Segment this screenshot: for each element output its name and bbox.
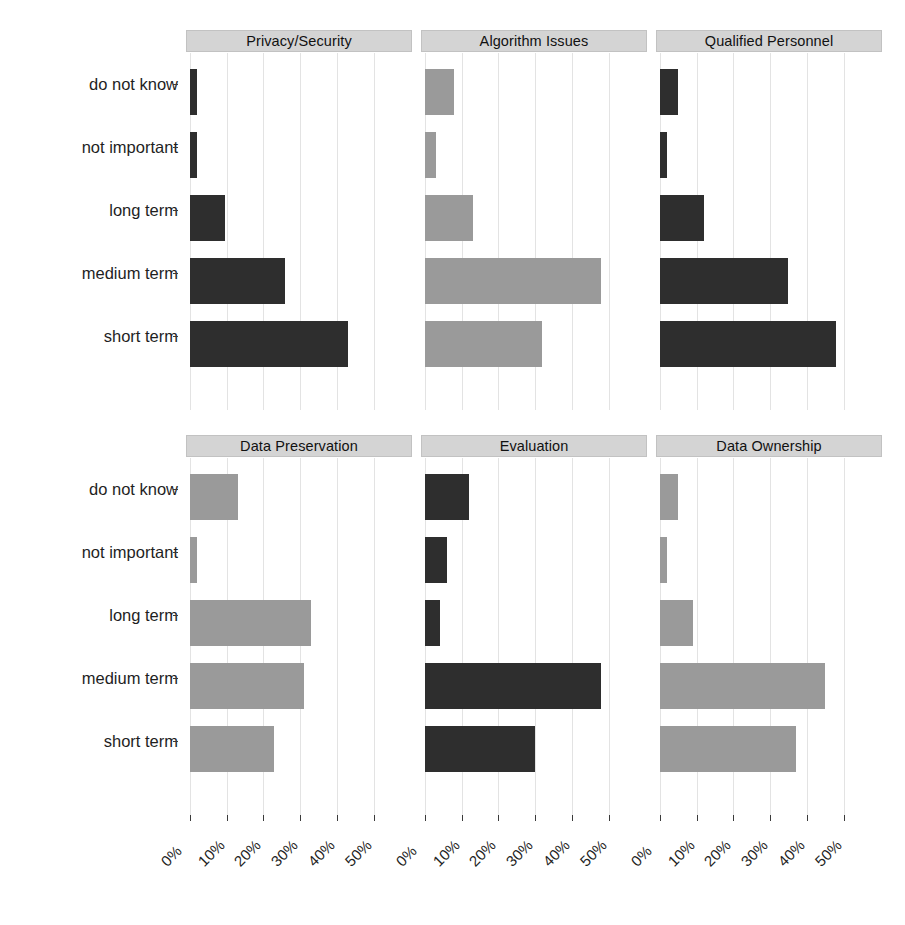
bar-track bbox=[656, 312, 882, 375]
bar bbox=[190, 663, 304, 709]
bar bbox=[660, 663, 825, 709]
facet-data-ownership: Data Ownership bbox=[656, 435, 882, 815]
bar-track bbox=[186, 654, 412, 717]
facet-row-bottom: Data Preservation Evaluation Data Owners… bbox=[0, 435, 905, 815]
x-axis-tick-icon bbox=[844, 815, 845, 821]
x-axis-tick-icon bbox=[609, 815, 610, 821]
bar-track bbox=[656, 654, 882, 717]
bar-track bbox=[421, 528, 647, 591]
bar bbox=[425, 474, 469, 520]
bar-track bbox=[421, 312, 647, 375]
bar bbox=[660, 321, 836, 367]
bar bbox=[660, 69, 678, 115]
x-axis-tick-icon bbox=[807, 815, 808, 821]
bar bbox=[660, 195, 704, 241]
x-axis-tick-icon bbox=[425, 815, 426, 821]
bar-track bbox=[656, 60, 882, 123]
bar-track bbox=[186, 123, 412, 186]
bar bbox=[660, 474, 678, 520]
facet-plot-area bbox=[656, 53, 882, 410]
facet-title-strip: Evaluation bbox=[421, 435, 647, 457]
x-axis-tick-icon bbox=[498, 815, 499, 821]
facet-plot-area bbox=[421, 53, 647, 410]
bar-track bbox=[421, 591, 647, 654]
bar-track bbox=[186, 186, 412, 249]
x-axis-tick-icon bbox=[770, 815, 771, 821]
bar-track bbox=[186, 528, 412, 591]
bar-track bbox=[421, 249, 647, 312]
bar-track bbox=[656, 123, 882, 186]
facet-plot-area bbox=[656, 458, 882, 815]
bar-track bbox=[186, 465, 412, 528]
facet-plot-area bbox=[421, 458, 647, 815]
bar-track bbox=[656, 249, 882, 312]
bar bbox=[190, 537, 197, 583]
x-axis-tick-icon bbox=[572, 815, 573, 821]
x-axis-tick-icon bbox=[374, 815, 375, 821]
bar bbox=[425, 321, 542, 367]
bar-track bbox=[656, 186, 882, 249]
bar bbox=[425, 663, 601, 709]
facet-algorithm-issues: Algorithm Issues bbox=[421, 30, 647, 410]
bar bbox=[190, 195, 225, 241]
x-axis-tick-label: 10% bbox=[194, 836, 227, 869]
bar bbox=[190, 258, 285, 304]
x-axis-tick-label: 40% bbox=[304, 836, 337, 869]
bar-track bbox=[656, 465, 882, 528]
bar bbox=[660, 258, 788, 304]
bar-track bbox=[186, 60, 412, 123]
x-axis-tick-label: 20% bbox=[701, 836, 734, 869]
bar bbox=[190, 600, 311, 646]
x-axis-tick-label: 20% bbox=[231, 836, 264, 869]
facet-title-strip: Privacy/Security bbox=[186, 30, 412, 52]
bar bbox=[660, 726, 796, 772]
x-axis-tick-label: 50% bbox=[341, 836, 374, 869]
bar-track bbox=[421, 465, 647, 528]
x-axis-tick-label: 40% bbox=[539, 836, 572, 869]
x-axis-tick-label: 30% bbox=[503, 836, 536, 869]
facet-plot-area bbox=[186, 458, 412, 815]
facet-title-strip: Algorithm Issues bbox=[421, 30, 647, 52]
bar-track bbox=[421, 717, 647, 780]
facet-row-top: Privacy/Security Algorithm Issues Qualif… bbox=[0, 30, 905, 410]
bar-track bbox=[421, 123, 647, 186]
x-axis-tick-label: 50% bbox=[811, 836, 844, 869]
x-axis-tick-icon bbox=[300, 815, 301, 821]
bar bbox=[190, 132, 197, 178]
x-axis-tick-label: 30% bbox=[738, 836, 771, 869]
facet-title-strip: Data Preservation bbox=[186, 435, 412, 457]
facet-plot-area bbox=[186, 53, 412, 410]
facet-title-strip: Data Ownership bbox=[656, 435, 882, 457]
bar-track bbox=[186, 717, 412, 780]
x-axis-tick-label: 20% bbox=[466, 836, 499, 869]
bar-track bbox=[186, 591, 412, 654]
x-axis-col-2: 0%10%20%30%40%50% bbox=[421, 815, 647, 915]
x-axis-tick-label: 40% bbox=[774, 836, 807, 869]
bar bbox=[425, 537, 447, 583]
x-axis-tick-icon bbox=[697, 815, 698, 821]
x-axis-tick-icon bbox=[227, 815, 228, 821]
x-axis-tick-icon bbox=[263, 815, 264, 821]
bar-track bbox=[186, 249, 412, 312]
x-axis-tick-label: 0% bbox=[157, 842, 184, 869]
bar bbox=[425, 600, 440, 646]
bar bbox=[190, 321, 348, 367]
facet-qualified-personnel: Qualified Personnel bbox=[656, 30, 882, 410]
bar-track bbox=[421, 186, 647, 249]
x-axis-tick-icon bbox=[660, 815, 661, 821]
facet-privacy-security: Privacy/Security bbox=[186, 30, 412, 410]
x-axis-tick-label: 50% bbox=[576, 836, 609, 869]
facet-data-preservation: Data Preservation bbox=[186, 435, 412, 815]
x-axis-tick-icon bbox=[337, 815, 338, 821]
x-axis-col-3: 0%10%20%30%40%50% bbox=[656, 815, 905, 915]
bar-track bbox=[656, 717, 882, 780]
x-axis-tick-icon bbox=[733, 815, 734, 821]
x-axis-tick-icon bbox=[535, 815, 536, 821]
bar bbox=[425, 132, 436, 178]
bar bbox=[660, 132, 667, 178]
bar bbox=[425, 195, 473, 241]
facet-title-strip: Qualified Personnel bbox=[656, 30, 882, 52]
x-axis-col-1: 0%10%20%30%40%50% bbox=[186, 815, 412, 915]
x-axis-tick-label: 10% bbox=[664, 836, 697, 869]
bar-track bbox=[421, 654, 647, 717]
